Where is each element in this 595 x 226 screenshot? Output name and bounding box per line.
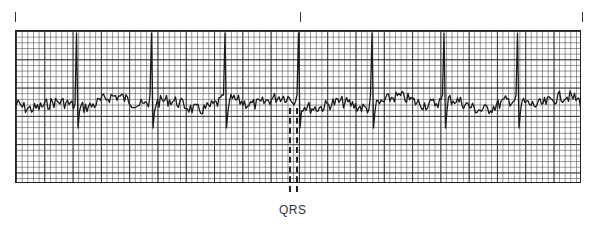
- time-marker-tick-right: [582, 12, 583, 22]
- qrs-label: QRS: [279, 203, 307, 217]
- qrs-bracket-marker: [289, 108, 298, 192]
- ecg-trace: [15, 30, 581, 183]
- time-marker-tick-left: [15, 12, 16, 22]
- time-marker-tick-middle: [300, 12, 301, 22]
